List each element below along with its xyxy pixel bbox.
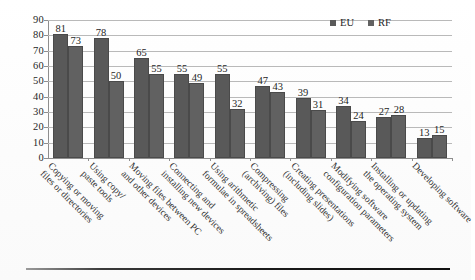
y-axis-tick-label: 0 — [20, 153, 44, 163]
y-axis-tick-label: 90 — [20, 15, 44, 25]
bar-group: 2728 — [376, 20, 406, 158]
bar-eu: 13 — [417, 138, 432, 158]
bar-value-label: 28 — [394, 105, 405, 115]
bar-value-label: 55 — [217, 64, 228, 74]
y-axis-tick-mark — [44, 35, 48, 36]
bar-series-container: 8173785065555549553247433931342427281315 — [48, 20, 452, 158]
bar-group: 6555 — [134, 20, 164, 158]
bar-eu: 65 — [134, 58, 149, 158]
y-axis-tick-mark — [44, 143, 48, 144]
bar-rf: 55 — [149, 74, 164, 158]
y-axis-tick-mark — [44, 81, 48, 82]
bar-value-label: 73 — [70, 36, 81, 46]
y-axis-tick-label: 30 — [20, 107, 44, 117]
y-axis-labels: 0102030405060708090 — [14, 20, 44, 158]
y-axis-tick-mark — [44, 20, 48, 21]
y-axis-tick-label: 80 — [20, 30, 44, 40]
y-axis-tick-label: 70 — [20, 46, 44, 56]
bar-value-label: 39 — [298, 88, 309, 98]
bar-value-label: 34 — [338, 96, 349, 106]
bar-eu: 78 — [94, 38, 109, 158]
bar-value-label: 27 — [379, 107, 390, 117]
bar-group: 1315 — [417, 20, 447, 158]
legend-label: EU — [340, 17, 354, 28]
bar-value-label: 32 — [232, 99, 243, 109]
bar-value-label: 55 — [177, 64, 188, 74]
y-axis-tick-mark — [44, 66, 48, 67]
bar-group: 5532 — [215, 20, 245, 158]
legend-label: RF — [378, 17, 391, 28]
bar-value-label: 43 — [272, 82, 283, 92]
legend-item-rf[interactable]: RF — [368, 17, 391, 28]
bar-rf: 43 — [270, 92, 285, 158]
chart-legend: EURF — [330, 17, 391, 28]
plot-area: 8173785065555549553247433931342427281315 — [48, 20, 452, 158]
y-axis-tick-mark — [44, 158, 48, 159]
legend-swatch-icon — [368, 20, 374, 26]
bar-value-label: 78 — [96, 28, 107, 38]
bar-value-label: 15 — [434, 125, 445, 135]
bar-rf: 15 — [432, 135, 447, 158]
bar-eu: 55 — [174, 74, 189, 158]
bar-group: 3424 — [336, 20, 366, 158]
y-axis-tick-label: 10 — [20, 138, 44, 148]
bar-value-label: 49 — [192, 73, 203, 83]
x-axis-tick-mark — [452, 158, 453, 161]
y-axis-tick-label: 20 — [20, 122, 44, 132]
bar-eu: 27 — [376, 117, 391, 158]
bar-rf: 31 — [311, 110, 326, 158]
bar-rf: 24 — [351, 121, 366, 158]
bar-group: 7850 — [94, 20, 124, 158]
y-axis-tick-mark — [44, 51, 48, 52]
bar-rf: 32 — [230, 109, 245, 158]
bar-rf: 49 — [189, 83, 204, 158]
y-axis-tick-mark — [44, 112, 48, 113]
bar-value-label: 81 — [55, 24, 66, 34]
y-axis-tick-label: 60 — [20, 61, 44, 71]
bar-eu: 34 — [336, 106, 351, 158]
legend-item-eu[interactable]: EU — [330, 17, 354, 28]
bar-eu: 39 — [296, 98, 311, 158]
bar-value-label: 55 — [151, 64, 162, 74]
y-axis-tick-mark — [44, 97, 48, 98]
bar-value-label: 65 — [136, 48, 147, 58]
bar-rf: 50 — [109, 81, 124, 158]
legend-swatch-icon — [330, 20, 336, 26]
bar-eu: 55 — [215, 74, 230, 158]
bar-value-label: 24 — [353, 111, 364, 121]
bar-value-label: 31 — [313, 100, 324, 110]
y-axis-tick-label: 40 — [20, 92, 44, 102]
bar-value-label: 50 — [111, 71, 122, 81]
y-axis-tick-label: 50 — [20, 76, 44, 86]
bar-eu: 47 — [255, 86, 270, 158]
bar-rf: 73 — [68, 46, 83, 158]
bar-group: 3931 — [296, 20, 326, 158]
bar-group: 4743 — [255, 20, 285, 158]
y-axis-tick-mark — [44, 127, 48, 128]
bar-value-label: 13 — [419, 128, 430, 138]
bar-value-label: 47 — [257, 76, 268, 86]
bar-group: 8173 — [53, 20, 83, 158]
bar-group: 5549 — [174, 20, 204, 158]
footer-rule — [26, 268, 450, 270]
bar-rf: 28 — [391, 115, 406, 158]
x-axis-category-labels: Copying or movingfiles or directoriesUsi… — [48, 160, 452, 260]
bar-eu: 81 — [53, 34, 68, 158]
